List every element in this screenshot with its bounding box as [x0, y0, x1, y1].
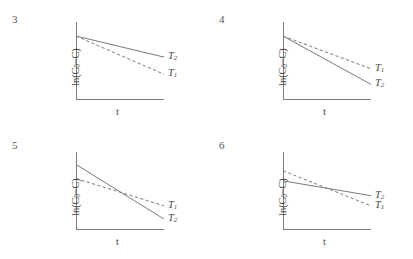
line-T2	[283, 36, 371, 84]
plot-area	[283, 22, 371, 100]
panel-4: 4ln(C0−C)tT1T2	[207, 0, 413, 129]
series-label-T1: T1	[168, 68, 177, 79]
x-axis-label: t	[116, 106, 119, 117]
panel-number: 4	[219, 14, 225, 25]
y-axis-label: ln(C0−C)	[70, 48, 82, 85]
line-T1	[76, 36, 164, 74]
line-T1	[283, 171, 371, 206]
series-lines	[76, 152, 164, 230]
series-label-T1: T1	[168, 200, 177, 211]
x-axis-label: t	[116, 236, 119, 247]
x-axis-label: t	[323, 106, 326, 117]
series-label-T2: T2	[168, 213, 177, 224]
kinetics-figure: 3ln(C0−C)tT2T14ln(C0−C)tT1T25ln(C0−C)tT1…	[0, 0, 413, 259]
panel-5: 5ln(C0−C)tT1T2	[0, 129, 207, 259]
x-axis-label: t	[323, 236, 326, 247]
plot-area	[76, 22, 164, 100]
line-T2	[76, 36, 164, 57]
series-label-T2: T2	[168, 51, 177, 62]
y-axis-label: ln(C0−C)	[70, 178, 82, 215]
series-label-T1: T1	[375, 63, 384, 74]
panel-3: 3ln(C0−C)tT2T1	[0, 0, 207, 129]
series-label-T2: T2	[375, 78, 384, 89]
panel-number: 6	[219, 140, 225, 151]
series-lines	[76, 22, 164, 100]
panel-6: 6ln(C0−C)tT2T1	[207, 129, 413, 259]
series-label-T1: T1	[375, 200, 384, 211]
y-axis-label: ln(C0−C)	[277, 48, 289, 85]
plot-area	[76, 152, 164, 230]
y-axis-label: ln(C0−C)	[277, 178, 289, 215]
panel-number: 3	[12, 14, 18, 25]
series-lines	[283, 152, 371, 230]
line-T2	[76, 164, 164, 219]
line-T1	[283, 36, 371, 69]
panel-number: 5	[12, 140, 18, 151]
series-lines	[283, 22, 371, 100]
plot-area	[283, 152, 371, 230]
